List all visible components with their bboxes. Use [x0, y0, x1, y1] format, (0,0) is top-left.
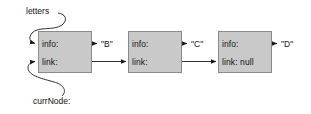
- pointer-label-currnode: currNode:: [33, 96, 70, 106]
- node-2-link-label: link:: [132, 57, 148, 67]
- node-1-info-label: info:: [42, 39, 59, 49]
- node-3-info-label: info:: [222, 39, 239, 49]
- node-2-info-label: info:: [132, 39, 149, 49]
- pointer-label-letters: letters: [26, 6, 49, 16]
- node-3-value: "D": [281, 39, 293, 49]
- linked-list-diagram: letters currNode: info: link: "B" info: …: [0, 0, 311, 114]
- node-2-value: "C": [191, 39, 203, 49]
- node-1-value: "B": [101, 39, 113, 49]
- node-1-link-label: link:: [42, 57, 58, 67]
- node-3-link-label: link: null: [222, 57, 254, 67]
